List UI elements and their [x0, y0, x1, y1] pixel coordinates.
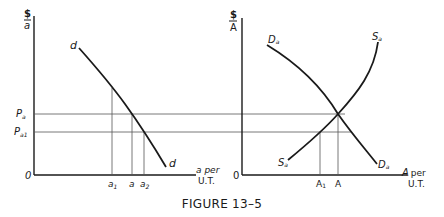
- supply-curve-Sa: [288, 42, 378, 160]
- left-y-label-unit: a: [24, 20, 30, 31]
- right-x-label: Aper: [401, 167, 426, 178]
- price-label-pa: Pa: [16, 108, 26, 120]
- left-x-label-unit: U.T.: [198, 176, 215, 186]
- right-panel: $ A Da Da Sa Sa 0 A1 A Aper U.T.: [229, 9, 426, 189]
- left-x-label: a per: [196, 165, 221, 175]
- tick-A: A: [335, 179, 342, 189]
- price-label-pa1: Pa1: [14, 126, 28, 138]
- right-x-label-unit: U.T.: [408, 179, 425, 189]
- right-y-label-unit: A: [230, 22, 237, 33]
- right-origin: 0: [233, 170, 239, 181]
- figure-diagram: $ a d d Pa Pa1 0 a1 a a2 a per U.T. $ A: [0, 0, 444, 217]
- label-Sa-bottom: Sa: [278, 157, 288, 168]
- label-Da-top: Da: [268, 34, 280, 45]
- tick-a1: a1: [108, 179, 117, 190]
- tick-a2: a2: [140, 179, 150, 190]
- demand-curve-Da: [267, 45, 377, 164]
- curve-label-d-bottom: d: [169, 157, 177, 170]
- left-y-label-dollar: $: [24, 8, 31, 19]
- curve-label-d-top: d: [70, 39, 78, 52]
- demand-curve-d: [79, 48, 166, 167]
- right-y-label-dollar: $: [230, 9, 237, 20]
- label-Sa-top: Sa: [372, 31, 382, 42]
- pa-sub: a: [22, 113, 26, 120]
- left-panel: $ a d d Pa Pa1 0 a1 a a2 a per U.T.: [14, 8, 352, 190]
- tick-a: a: [129, 179, 135, 189]
- left-origin: 0: [25, 170, 31, 181]
- label-Da-bottom: Da: [378, 159, 390, 170]
- tick-A1: A1: [316, 179, 326, 189]
- pa1-sub: a1: [20, 131, 28, 138]
- figure-caption: FIGURE 13–5: [0, 197, 444, 211]
